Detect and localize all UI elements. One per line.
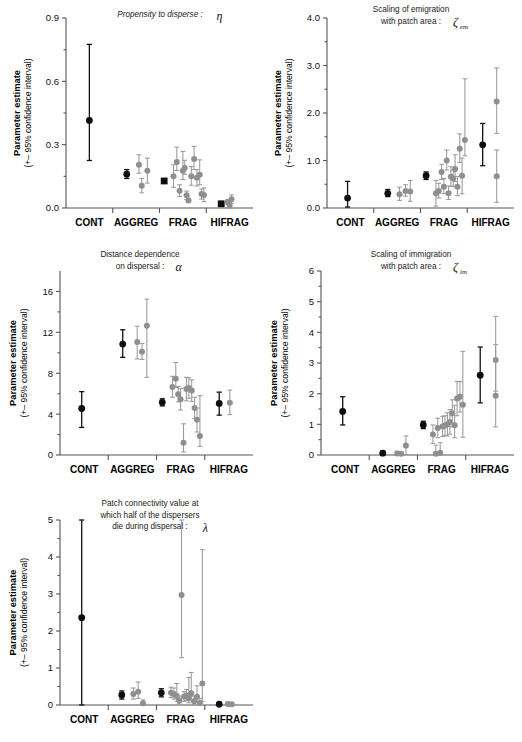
- panel-plot-area: Distance dependenceon dispersal :α048121…: [0, 243, 261, 488]
- panel-plot-area: Scaling of immigrationwith patch area :ζ…: [261, 243, 522, 488]
- data-marker-circle: [339, 408, 346, 415]
- panel-title-symbol: ζ: [453, 15, 459, 29]
- panel-title-line: on dispersal :: [116, 262, 165, 271]
- data-marker-circle: [201, 192, 207, 198]
- y-tick-label: 4.0: [307, 12, 320, 23]
- data-point-replicate: [197, 160, 203, 185]
- y-tick-label: 3: [48, 588, 53, 599]
- data-point-replicate: [398, 451, 404, 457]
- y-axis-title: Parameter estimate(+– 95% confidence int…: [12, 58, 33, 167]
- panel-plot-area: Patch connectivity value atwhich half of…: [0, 490, 261, 742]
- data-marker-circle: [454, 184, 460, 190]
- data-marker-circle: [477, 372, 484, 379]
- data-point-mean: [216, 392, 223, 415]
- y-tick-label: 4: [48, 409, 53, 420]
- data-marker-circle: [189, 388, 195, 394]
- data-marker-circle: [194, 694, 200, 700]
- y-tick-label: 0.3: [46, 139, 59, 150]
- data-point-replicate: [441, 179, 447, 194]
- y-axis-title-line2: (+– 95% confidence interval): [19, 308, 29, 417]
- data-point-replicate: [191, 146, 197, 169]
- y-tick-label: 4: [48, 551, 53, 562]
- data-marker-circle: [441, 184, 447, 190]
- x-category-label-cont: CONT: [331, 464, 359, 475]
- y-tick-label: 2: [48, 625, 53, 636]
- data-marker-circle: [494, 173, 500, 179]
- y-tick-label: 4: [309, 327, 314, 338]
- data-point-replicate: [199, 550, 205, 702]
- data-marker-circle: [494, 99, 500, 105]
- data-marker-circle: [437, 450, 443, 456]
- data-point-replicate: [144, 299, 150, 377]
- panel-title-line: Propensity to disperse :: [117, 10, 203, 19]
- data-point-mean: [479, 123, 486, 165]
- data-point-replicate: [140, 700, 146, 706]
- figure-canvas: Propensity to disperse :η0.00.30.60.9CON…: [0, 0, 522, 742]
- data-marker-circle: [158, 689, 165, 696]
- data-point-replicate: [494, 150, 500, 202]
- data-marker-circle: [118, 692, 125, 699]
- data-point-mean: [158, 689, 165, 697]
- data-marker-circle: [171, 173, 177, 179]
- panel-plot-area: Scaling of emigrationwith patch area :ζe…: [261, 0, 522, 240]
- data-marker-circle: [430, 431, 436, 437]
- data-marker-circle: [159, 399, 166, 406]
- panel-title-line: Scaling of emigration: [373, 5, 450, 14]
- data-marker-circle: [407, 188, 413, 194]
- y-tick-label: 1: [309, 419, 314, 430]
- panel-title-symbol: η: [217, 9, 223, 23]
- y-tick-label: 0.9: [46, 12, 59, 23]
- data-marker-circle: [379, 450, 386, 457]
- data-marker-circle: [144, 323, 150, 329]
- x-category-label-aggreg: AGGREG: [375, 217, 420, 228]
- y-axis-title: Parameter estimate(+– 95% confidence int…: [8, 308, 29, 417]
- data-marker-circle: [194, 417, 200, 423]
- data-marker-circle: [423, 172, 430, 179]
- data-marker-circle: [479, 141, 486, 148]
- y-axis-title-line2: (+– 95% confidence interval): [19, 558, 29, 667]
- data-point-replicate: [139, 344, 145, 360]
- data-marker-circle: [227, 202, 233, 208]
- data-point-replicate: [185, 197, 191, 203]
- data-marker-circle: [457, 394, 463, 400]
- data-point-mean: [118, 691, 125, 699]
- data-marker-circle: [439, 169, 445, 175]
- data-marker-circle: [420, 422, 427, 429]
- data-point-mean: [384, 189, 391, 196]
- data-marker-circle: [436, 188, 442, 194]
- data-point-mean: [339, 397, 346, 425]
- data-marker-circle: [176, 698, 182, 704]
- y-axis-title: Parameter estimate(+– 95% confidence int…: [269, 308, 290, 417]
- data-marker-circle: [181, 440, 187, 446]
- y-tick-label: 6: [309, 265, 314, 276]
- data-marker-circle: [384, 190, 391, 197]
- data-marker-circle: [139, 183, 145, 189]
- x-category-label-frag: FRAG: [166, 464, 195, 475]
- data-marker-circle: [173, 376, 179, 382]
- data-marker-circle: [197, 433, 203, 439]
- x-category-label-frag: FRAG: [430, 217, 459, 228]
- panel-title-line: with patch area :: [380, 17, 441, 26]
- data-point-replicate: [139, 178, 145, 192]
- data-marker-circle: [460, 402, 466, 408]
- data-marker-circle: [136, 162, 142, 168]
- y-tick-label: 16: [42, 286, 53, 297]
- data-marker-circle: [134, 339, 140, 345]
- y-tick-label: 3: [309, 357, 314, 368]
- data-point-mean: [216, 701, 223, 708]
- data-marker-circle: [227, 400, 233, 406]
- data-point-mean: [86, 44, 93, 160]
- x-category-label-hifrag: HIFRAG: [471, 464, 510, 475]
- data-marker-circle: [188, 690, 194, 696]
- x-category-label-cont: CONT: [70, 464, 98, 475]
- data-point-mean: [420, 421, 427, 428]
- data-point-mean: [218, 200, 225, 207]
- data-point-replicate: [174, 147, 180, 170]
- data-point-replicate: [493, 345, 499, 427]
- data-marker-circle: [452, 166, 458, 172]
- data-point-replicate: [403, 436, 409, 454]
- y-axis-title-line1: Parameter estimate: [273, 70, 283, 156]
- y-axis-title-line1: Parameter estimate: [269, 320, 279, 406]
- data-point-replicate: [396, 187, 402, 200]
- data-marker-square: [161, 178, 168, 185]
